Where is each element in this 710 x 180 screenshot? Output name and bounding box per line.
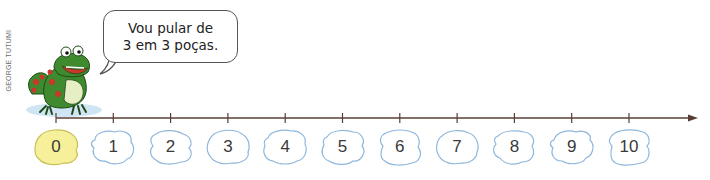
puddle-label: 6 (376, 128, 424, 166)
puddle-label: 5 (319, 128, 367, 166)
puddle-label: 0 (32, 128, 80, 166)
puddle-1: 1 (89, 128, 137, 166)
puddle-label: 4 (261, 128, 309, 166)
puddle-label: 3 (204, 128, 252, 166)
arrow-right-icon (688, 115, 698, 122)
puddle-9: 9 (548, 128, 596, 166)
puddle-7: 7 (433, 128, 481, 166)
puddle-label: 8 (490, 128, 538, 166)
puddle-label: 9 (548, 128, 596, 166)
puddle-label: 1 (89, 128, 137, 166)
puddle-8: 8 (490, 128, 538, 166)
puddle-2: 2 (147, 128, 195, 166)
puddle-4: 4 (261, 128, 309, 166)
puddle-label: 10 (605, 128, 653, 166)
puddle-label: 2 (147, 128, 195, 166)
puddle-3: 3 (204, 128, 252, 166)
puddle-5: 5 (319, 128, 367, 166)
puddle-0: 0 (32, 128, 80, 166)
puddle-6: 6 (376, 128, 424, 166)
puddle-label: 7 (433, 128, 481, 166)
puddle-10: 10 (605, 128, 653, 166)
